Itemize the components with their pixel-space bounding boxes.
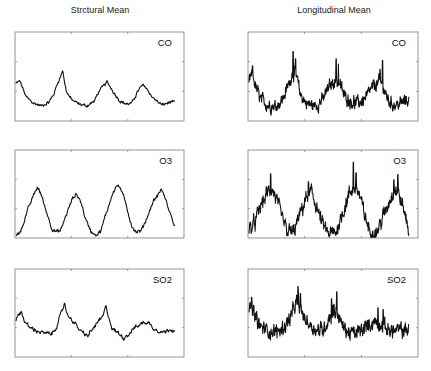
- column-title-structural: Strctural Mean: [71, 5, 130, 15]
- series-label: CO: [158, 37, 172, 48]
- series-label: CO: [392, 37, 406, 48]
- series-label: O3: [393, 155, 406, 166]
- series-label: SO2: [387, 274, 406, 285]
- panel-so2-structural: SO2: [15, 269, 184, 357]
- panel-co-structural: CO: [15, 32, 184, 121]
- panel-o3-structural: O3: [15, 150, 184, 238]
- series-label: SO2: [153, 274, 172, 285]
- panel-so2-longitudinal: SO2: [248, 269, 418, 357]
- panels: COCOO3O3SO2SO2: [15, 32, 418, 357]
- panel-co-longitudinal: CO: [248, 32, 418, 121]
- figure: Strctural Mean Longitudinal Mean COCOO3O…: [0, 0, 431, 371]
- column-title-longitudinal: Longitudinal Mean: [297, 5, 371, 15]
- panel-o3-longitudinal: O3: [248, 150, 418, 238]
- series-label: O3: [159, 155, 172, 166]
